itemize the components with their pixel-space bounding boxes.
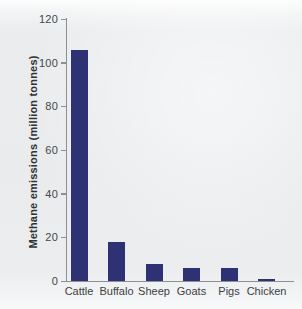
y-tick-label-120: 120 [30, 13, 58, 25]
bar-cattle [71, 50, 88, 281]
y-tick-label-80: 80 [30, 100, 58, 112]
y-tick-mark-20 [61, 237, 66, 239]
bar-chicken [258, 279, 275, 281]
y-tick-mark-100 [61, 62, 66, 64]
y-tick-mark-60 [61, 150, 66, 152]
x-tick-label-chicken: Chicken [235, 285, 299, 298]
y-tick-mark-0 [61, 281, 66, 283]
y-tick-mark-120 [61, 19, 66, 21]
bar-pigs [221, 268, 238, 281]
y-tick-mark-40 [61, 193, 66, 195]
plot-area [66, 18, 294, 282]
y-tick-label-60: 60 [30, 144, 58, 156]
y-tick-label-100: 100 [30, 57, 58, 69]
bar-goats [183, 268, 200, 281]
bar-buffalo [108, 242, 125, 281]
y-tick-mark-80 [61, 106, 66, 108]
chart-canvas: Methane emissions (million tonnes) 02040… [0, 0, 302, 309]
y-tick-label-40: 40 [30, 188, 58, 200]
bar-sheep [146, 264, 163, 281]
y-tick-label-20: 20 [30, 231, 58, 243]
